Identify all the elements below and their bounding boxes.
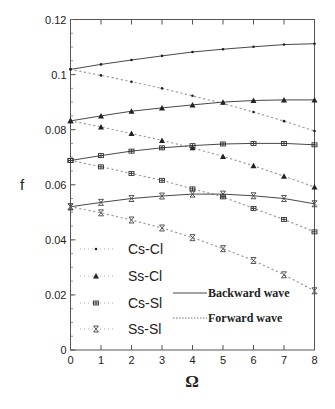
dot-marker bbox=[252, 45, 255, 48]
triangle-mark bbox=[93, 273, 99, 279]
asterisk-box-marker bbox=[282, 217, 287, 221]
dot-mark bbox=[252, 45, 255, 48]
dot-marker bbox=[191, 51, 194, 54]
series-line bbox=[71, 161, 315, 232]
asterisk-box-marker bbox=[99, 154, 104, 158]
dot-marker bbox=[313, 130, 316, 133]
series-line bbox=[71, 44, 315, 70]
dot-marker bbox=[222, 48, 225, 51]
triangle-mark bbox=[129, 131, 135, 137]
y-tick-label: 0 bbox=[60, 344, 66, 356]
hourglass-marker bbox=[251, 257, 256, 263]
legend-label: Forward wave bbox=[208, 311, 283, 325]
hourglass-mark bbox=[160, 225, 165, 231]
dot-marker bbox=[100, 74, 103, 77]
asterisk-box-marker bbox=[160, 146, 165, 150]
asterisk-box-marker bbox=[129, 171, 134, 175]
hourglass-mark bbox=[251, 257, 256, 263]
dot-marker bbox=[161, 87, 164, 90]
legend-item-ss-sl: Ss-Sl bbox=[80, 321, 161, 337]
legend: Cs-ClSs-ClCs-SlSs-SlBackward waveForward… bbox=[80, 241, 290, 337]
legend-item-backward-wave: Backward wave bbox=[173, 286, 290, 300]
x-tick-label: 2 bbox=[128, 354, 134, 366]
dot-marker bbox=[283, 43, 286, 46]
triangle-marker bbox=[159, 137, 165, 143]
series-line bbox=[71, 121, 315, 187]
series-cs-cl-backward bbox=[69, 42, 316, 70]
dot-marker bbox=[283, 120, 286, 123]
triangle-mark bbox=[251, 163, 257, 169]
dot-mark bbox=[313, 42, 316, 45]
triangle-mark bbox=[312, 184, 318, 190]
triangle-marker bbox=[312, 184, 318, 190]
dot-mark bbox=[130, 59, 133, 62]
y-tick-label: 0.06 bbox=[45, 179, 66, 191]
legend-item-ss-cl: Ss-Cl bbox=[80, 268, 162, 284]
series-group bbox=[68, 42, 318, 293]
asterisk-box-marker bbox=[160, 178, 165, 182]
legend-label: Cs-Cl bbox=[128, 241, 163, 257]
dot-mark bbox=[283, 120, 286, 123]
dot-marker bbox=[313, 42, 316, 45]
dot-marker bbox=[130, 80, 133, 83]
series-line bbox=[71, 207, 315, 291]
asterisk-box-marker bbox=[129, 149, 134, 153]
dot-mark bbox=[191, 51, 194, 54]
dot-marker bbox=[252, 111, 255, 114]
asterisk-box-marker bbox=[94, 301, 99, 305]
legend-item-cs-sl: Cs-Sl bbox=[80, 295, 162, 311]
series-ss-cl-forward bbox=[68, 118, 318, 190]
asterisk-box-marker bbox=[190, 187, 195, 191]
hourglass-marker bbox=[282, 272, 287, 278]
asterisk-box-marker bbox=[312, 230, 317, 234]
x-tick-label: 1 bbox=[98, 354, 104, 366]
dot-marker bbox=[191, 94, 194, 97]
y-axis-label: f bbox=[20, 176, 25, 193]
triangle-marker bbox=[220, 153, 226, 159]
dot-mark bbox=[100, 63, 103, 66]
triangle-marker bbox=[281, 173, 287, 179]
dot-mark bbox=[130, 80, 133, 83]
dot-mark bbox=[313, 130, 316, 133]
dot-mark bbox=[100, 74, 103, 77]
hourglass-marker bbox=[160, 225, 165, 231]
legend-label: Backward wave bbox=[208, 286, 290, 300]
x-axis-label: Ω bbox=[185, 372, 199, 391]
asterisk-box-marker bbox=[251, 206, 256, 210]
y-tick-label: 0.04 bbox=[45, 234, 66, 246]
triangle-marker bbox=[251, 163, 257, 169]
dot-mark bbox=[283, 43, 286, 46]
asterisk-box-marker bbox=[312, 143, 317, 147]
dot-marker bbox=[130, 59, 133, 62]
y-tick-label: 0.08 bbox=[45, 124, 66, 136]
x-tick-label: 5 bbox=[220, 354, 226, 366]
triangle-mark bbox=[159, 137, 165, 143]
dot-marker bbox=[100, 63, 103, 66]
series-line bbox=[71, 194, 315, 207]
legend-item-cs-cl: Cs-Cl bbox=[80, 241, 163, 257]
hourglass-mark bbox=[282, 272, 287, 278]
dot-mark bbox=[95, 248, 98, 251]
legend-label: Ss-Sl bbox=[128, 321, 161, 337]
x-tick-label: 3 bbox=[159, 354, 165, 366]
series-cs-sl-forward bbox=[68, 159, 317, 234]
asterisk-box-marker bbox=[221, 142, 226, 146]
dot-mark bbox=[252, 111, 255, 114]
y-tick-label: 0.12 bbox=[45, 14, 66, 26]
plot-frame bbox=[71, 20, 315, 351]
triangle-mark bbox=[220, 153, 226, 159]
asterisk-box-marker bbox=[99, 165, 104, 169]
x-tick-label: 7 bbox=[281, 354, 287, 366]
asterisk-box-marker bbox=[68, 159, 73, 163]
legend-label: Cs-Sl bbox=[128, 295, 162, 311]
asterisk-box-marker bbox=[251, 141, 256, 145]
chart: 01234567800.020.040.060.080.10.12 Cs-ClS… bbox=[0, 0, 335, 409]
triangle-marker bbox=[93, 273, 99, 279]
y-tick-label: 0.02 bbox=[45, 289, 66, 301]
triangle-marker bbox=[129, 131, 135, 137]
hourglass-mark bbox=[94, 326, 99, 332]
legend-label: Ss-Cl bbox=[128, 268, 162, 284]
series-ss-sl-backward bbox=[68, 191, 317, 210]
legend-item-forward-wave: Forward wave bbox=[173, 311, 283, 325]
hourglass-marker bbox=[94, 326, 99, 332]
